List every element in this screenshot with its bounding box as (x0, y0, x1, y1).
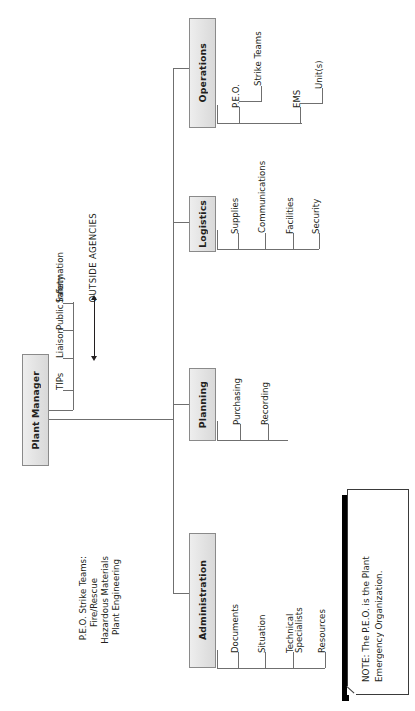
connector-ems-units-v (322, 88, 323, 104)
node-plant-manager-label: Plant Manager (30, 371, 41, 450)
leaf-label-purchasing: Purchasing (233, 377, 242, 425)
leaf-label-ems: EMS (293, 82, 302, 108)
leaf-label-strike-teams: Strike Teams (254, 42, 263, 86)
connector-planning-bar (217, 440, 288, 441)
connector-staff-tips (63, 390, 73, 391)
connector-operations-peo (239, 107, 240, 123)
leaf-label-security: Security (312, 199, 321, 234)
connector-staff-rail (73, 302, 74, 410)
connector-peo-striketeams-v (261, 86, 262, 102)
connector-spine-logistics (173, 222, 189, 223)
leaf-label-facilities: Facilities (286, 194, 295, 234)
connector-spine-administration (173, 593, 189, 594)
connector-administration-situation (265, 652, 266, 668)
org-chart-canvas: Plant Manager TIPs Liaison Public Inform… (0, 0, 415, 711)
connector-staff-liaison (63, 358, 73, 359)
connector-operations-ems (300, 107, 301, 123)
node-planning-label: Planning (197, 381, 208, 428)
connector-operations-bar (217, 123, 302, 124)
note-box: NOTE: The P.E.O. is the Plant Emergency … (347, 489, 409, 695)
connector-peo-striketeams-h (239, 101, 261, 102)
connector-planning-purchasing (240, 424, 241, 440)
node-logistics-label: Logistics (197, 200, 208, 248)
connector-root-to-spine (49, 419, 173, 420)
staff-label-tips: TIPs (56, 366, 65, 390)
node-plant-manager[interactable]: Plant Manager (22, 354, 49, 466)
node-logistics[interactable]: Logistics (189, 196, 216, 252)
legend-item-fire-rescue: Fire/Rescue (89, 578, 100, 627)
staff-label-safety: Safety (56, 273, 65, 303)
connector-administration-documents (238, 652, 239, 668)
connector-spine-operations (173, 68, 189, 69)
leaf-label-resources: Resources (318, 609, 327, 653)
connector-administration-resources (325, 652, 326, 668)
leaf-label-documents: Documents (231, 601, 240, 653)
leaf-label-communications: Communications (258, 161, 267, 233)
note-callout: NOTE: The P.E.O. is the Plant Emergency … (342, 489, 410, 701)
leaf-label-supplies: Supplies (231, 196, 240, 234)
node-administration[interactable]: Administration (189, 533, 216, 668)
outside-agencies-arrow-line (94, 300, 95, 356)
connector-logistics-facilities (293, 233, 294, 249)
connector-administration-technical-specialists (293, 652, 294, 668)
leaf-label-technical-specialists: Technical Specialists (286, 598, 308, 653)
note-text: NOTE: The P.E.O. is the Plant Emergency … (360, 504, 400, 682)
leaf-label-recording: Recording (261, 381, 270, 425)
connector-root-stub (49, 410, 73, 411)
legend-item-plant-engineering: Plant Engineering (111, 559, 122, 635)
node-operations[interactable]: Operations (189, 18, 216, 128)
connector-logistics-supplies (238, 233, 239, 249)
connector-logistics-communications (265, 233, 266, 249)
node-administration-label: Administration (197, 560, 208, 640)
connector-planning-recording (268, 424, 269, 440)
leaf-label-situation: Situation (258, 610, 267, 653)
node-operations-label: Operations (197, 43, 208, 102)
node-planning[interactable]: Planning (189, 368, 216, 441)
connector-planning-rail (217, 421, 218, 440)
connector-logistics-rail (217, 230, 218, 249)
connector-administration-bar (217, 668, 325, 669)
outside-agencies-arrowhead-bottom (91, 356, 97, 361)
connector-operations-rail (217, 105, 218, 123)
connector-ems-units-h (300, 103, 322, 104)
connector-logistics-bar (217, 249, 319, 250)
outside-agencies-label: OUTSIDE AGENCIES (88, 213, 99, 303)
legend-item-hazardous-materials: Hazardous Materials (100, 556, 111, 644)
connector-logistics-security (319, 233, 320, 249)
leaf-label-units: Unit(s) (315, 57, 324, 89)
connector-administration-rail (217, 650, 218, 668)
connector-spine-planning (173, 404, 189, 405)
legend-heading: P.E.O. Strike Teams: (78, 556, 89, 640)
connector-main-spine (173, 68, 174, 593)
leaf-label-peo: P.E.O. (232, 80, 241, 108)
